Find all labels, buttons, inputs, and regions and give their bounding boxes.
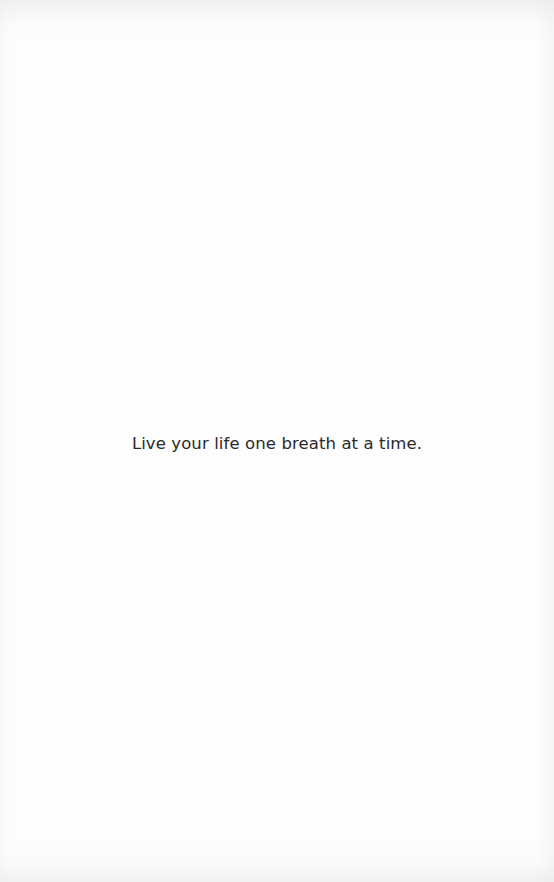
page: Live your life one breath at a time. (0, 0, 554, 882)
quote-text: Live your life one breath at a time. (0, 433, 554, 455)
